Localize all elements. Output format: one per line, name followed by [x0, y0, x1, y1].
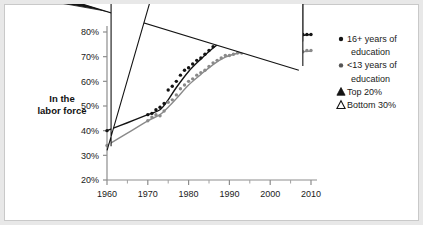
data-point: [195, 73, 198, 76]
legend-dot-icon: [339, 63, 343, 67]
chart-figure: 20%30%40%50%60%70%80%1960197019801990200…: [0, 0, 423, 225]
y-tick-label: 20%: [81, 175, 99, 185]
legend-label-cont: education: [351, 47, 390, 57]
x-tick-label: 2000: [260, 189, 280, 199]
y-tick-label: 80%: [81, 27, 99, 37]
data-point: [175, 80, 178, 83]
bottom30-triangle-marker: [107, 0, 150, 150]
data-point: [150, 112, 153, 115]
x-tick-label: 1980: [179, 189, 199, 199]
chart-legend: 16+ years ofeducation<13 years ofeducati…: [337, 34, 397, 110]
data-point: [158, 106, 161, 109]
data-point: [232, 53, 235, 56]
data-point: [171, 98, 174, 101]
data-point: [305, 49, 308, 52]
x-tick-label: 1960: [97, 189, 117, 199]
data-point: [183, 83, 186, 86]
data-point: [191, 62, 194, 65]
data-point: [146, 113, 149, 116]
x-tick-label: 1970: [138, 189, 158, 199]
data-point: [199, 71, 202, 74]
bottom30-triangle-marker: [70, 0, 303, 70]
data-point: [162, 109, 165, 112]
data-point: [211, 45, 214, 48]
y-axis-title: In thelabor force: [37, 93, 86, 116]
legend-label: <13 years of: [347, 60, 397, 70]
y-tick-label: 30%: [81, 151, 99, 161]
data-point: [183, 69, 186, 72]
legend-open-triangle-icon: [337, 101, 345, 109]
x-tick-label: 1990: [219, 189, 239, 199]
data-point: [146, 119, 149, 122]
y-tick-label: 60%: [81, 77, 99, 87]
labor-force-chart: 20%30%40%50%60%70%80%1960197019801990200…: [0, 0, 423, 225]
data-point: [191, 77, 194, 80]
data-point: [207, 49, 210, 52]
data-point: [154, 108, 157, 111]
data-point: [175, 93, 178, 96]
data-point: [203, 69, 206, 72]
legend-label: 16+ years of: [347, 34, 397, 44]
data-point: [195, 59, 198, 62]
y-axis-title-line2: labor force: [37, 105, 86, 116]
data-point: [187, 66, 190, 69]
data-point: [162, 102, 165, 105]
legend-label: Top 20%: [347, 87, 382, 97]
data-point: [154, 113, 157, 116]
data-point: [167, 101, 170, 104]
data-point: [211, 61, 214, 64]
data-point: [158, 114, 161, 117]
data-point: [215, 59, 218, 62]
y-axis-title-line1: In the: [49, 93, 74, 104]
legend-filled-triangle-icon: [337, 88, 345, 96]
legend-dot-icon: [339, 37, 343, 41]
data-point: [150, 115, 153, 118]
data-point: [305, 33, 308, 36]
y-tick-label: 70%: [81, 52, 99, 62]
data-point: [167, 88, 170, 91]
data-point: [171, 85, 174, 88]
data-point: [199, 56, 202, 59]
data-point: [179, 73, 182, 76]
data-point: [179, 87, 182, 90]
x-tick-label: 2010: [301, 189, 321, 199]
data-point: [187, 80, 190, 83]
data-point: [207, 65, 210, 68]
data-point: [105, 129, 108, 132]
data-point: [309, 49, 312, 52]
data-point: [309, 33, 312, 36]
data-point: [224, 54, 227, 57]
data-point: [203, 53, 206, 56]
data-point: [220, 56, 223, 59]
y-tick-label: 40%: [81, 126, 99, 136]
legend-label-cont: education: [351, 74, 390, 84]
legend-label: Bottom 30%: [347, 100, 396, 110]
data-point: [228, 54, 231, 57]
